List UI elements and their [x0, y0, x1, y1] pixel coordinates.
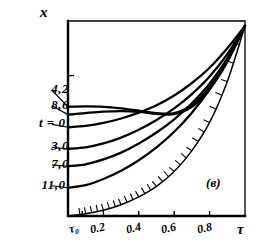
- hatch-tick: [186, 147, 192, 150]
- series-label-8-6: 8,6: [19, 97, 69, 113]
- hatch-tick: [192, 138, 198, 141]
- x-axis-label: τ: [237, 221, 244, 238]
- hatch-tick: [198, 128, 204, 131]
- hatch-tick: [107, 202, 109, 208]
- curve-4-2: [68, 26, 245, 114]
- hatch-tick: [84, 207, 85, 213]
- hatch-tick: [221, 79, 227, 81]
- hatch-tick: [169, 167, 174, 171]
- hatch-tick: [96, 205, 97, 211]
- y-axis-label: x: [40, 4, 48, 21]
- hatch-tick: [158, 176, 162, 181]
- x-tick-label: 0.6: [160, 220, 178, 238]
- hatch-tick: [210, 106, 216, 109]
- hatch-tick: [181, 153, 186, 157]
- hatch-tick: [135, 191, 138, 197]
- hatch-tick: [215, 93, 221, 96]
- panel-label: (в): [206, 175, 220, 191]
- series-label-4-2: 4,2: [19, 81, 69, 97]
- hatch-tick: [152, 181, 156, 186]
- x-tick-label: 0.8: [195, 220, 213, 238]
- hatch-tick: [118, 199, 121, 205]
- series-label-3-0: 3,0: [19, 138, 69, 154]
- x-tick-label: 0.4: [124, 220, 142, 238]
- hatch-tick: [79, 208, 80, 214]
- hatch-tick: [164, 171, 168, 176]
- hatch-tick: [113, 200, 115, 206]
- figure-panel-v: x τ (в) 4,28,6t = 03,07,011,0 τ₀0.20.40.…: [0, 0, 267, 245]
- hatch-tick: [130, 194, 133, 200]
- hatch-tick: [90, 206, 91, 212]
- series-label-0: t = 0: [16, 115, 66, 131]
- hatch-tick: [141, 188, 144, 194]
- hatch-tick: [204, 120, 210, 123]
- series-label-7-0: 7,0: [19, 156, 69, 172]
- series-label-11-0: 11,0: [16, 177, 66, 193]
- hatch-tick: [124, 196, 127, 202]
- hatch-tick: [101, 204, 103, 210]
- curve-3-0: [68, 26, 245, 149]
- hatch-tick: [147, 184, 150, 190]
- hatch-tick: [175, 160, 180, 164]
